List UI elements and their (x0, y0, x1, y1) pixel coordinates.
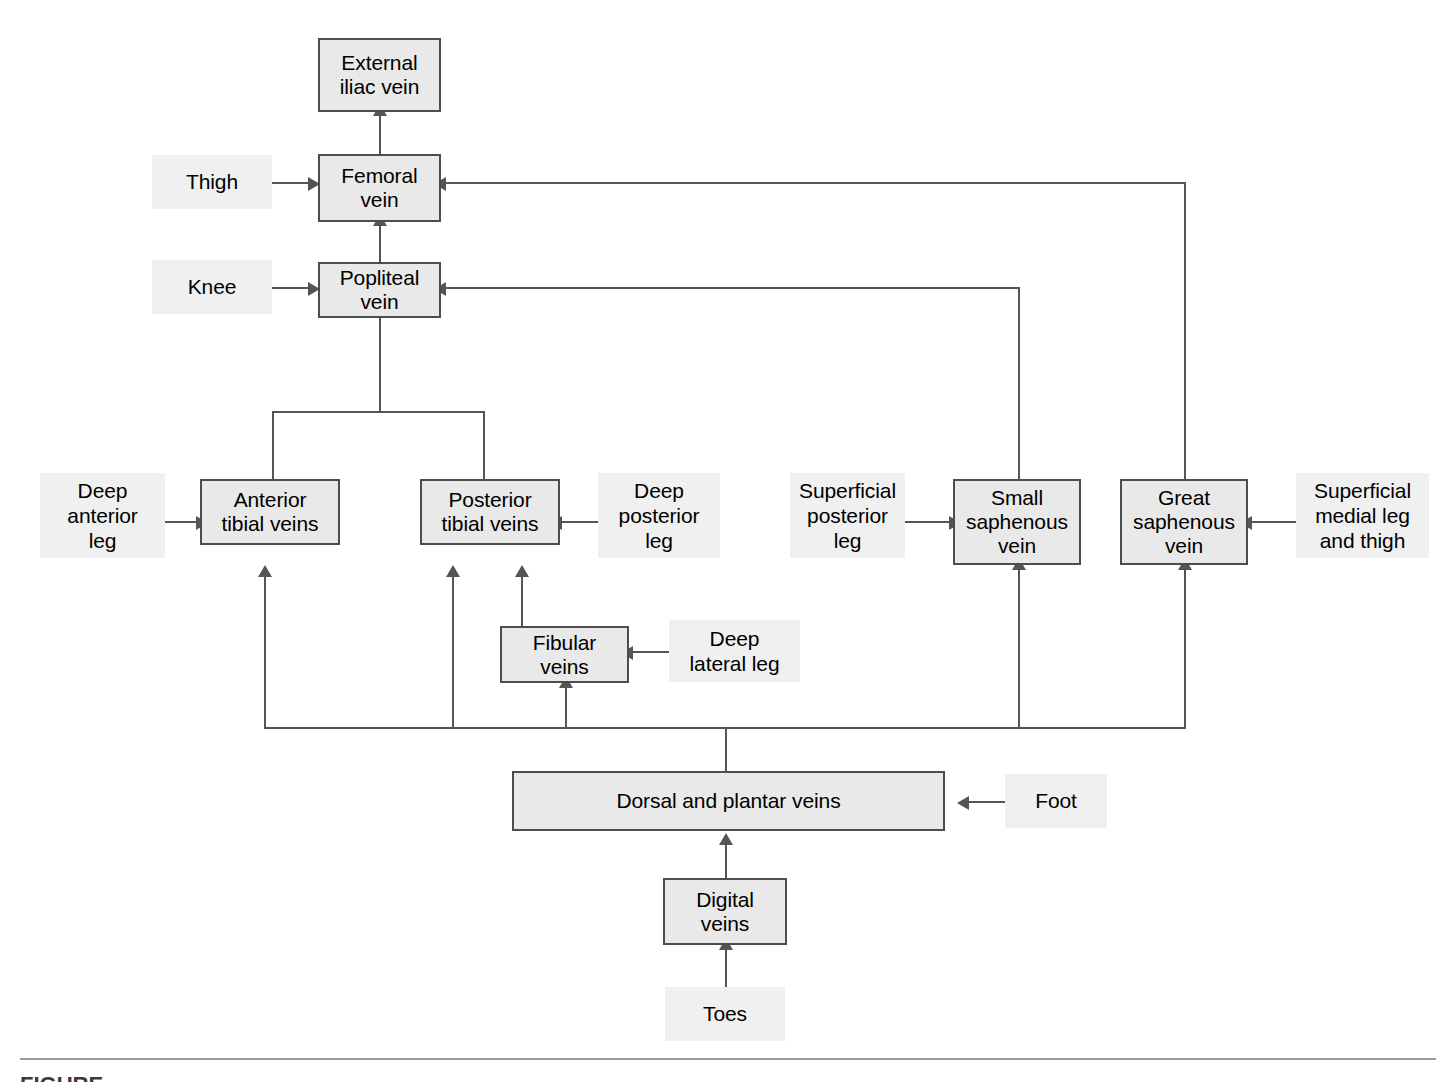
source-label-deep-lateral-leg-line1: Deep (690, 626, 780, 651)
source-label-thigh: Thigh (152, 155, 272, 209)
node-anterior-tibial-veins-line1: Anterior (222, 488, 319, 512)
edge-small-saphenous-riser (1018, 287, 1020, 479)
node-small-saphenous-vein-line3: vein (966, 534, 1068, 558)
edge-foot-to-dorsal-plantar (965, 801, 1005, 803)
edge-toes-to-digital (725, 945, 727, 987)
edge-superficial-posterior-leg-to-small-saphenous (905, 521, 953, 523)
source-label-superficial-posterior-leg-line3: leg (799, 528, 896, 553)
node-anterior-tibial-veins-line2: tibial veins (222, 512, 319, 536)
edge-posterior-tibial-to-junction (483, 411, 485, 479)
node-dorsal-and-plantar-veins-label: Dorsal and plantar veins (616, 789, 840, 813)
edge-small-saphenous-to-popliteal (444, 287, 1020, 289)
node-dorsal-and-plantar-veins[interactable]: Dorsal and plantar veins (512, 771, 945, 831)
source-label-superficial-medial-line1: Superficial (1314, 478, 1411, 503)
node-external-iliac-vein-line1: External (340, 51, 420, 75)
node-popliteal-vein-line2: vein (340, 290, 420, 314)
node-femoral-vein[interactable]: Femoral vein (318, 154, 441, 222)
source-label-toes-text: Toes (703, 1001, 747, 1026)
source-label-deep-posterior-leg: Deep posterior leg (598, 473, 720, 558)
source-label-deep-anterior-leg-line3: leg (67, 528, 137, 553)
node-popliteal-vein-line1: Popliteal (340, 266, 420, 290)
node-posterior-tibial-veins[interactable]: Posterior tibial veins (420, 479, 560, 545)
node-small-saphenous-vein[interactable]: Small saphenous vein (953, 479, 1081, 565)
node-great-saphenous-vein[interactable]: Great saphenous vein (1120, 479, 1248, 565)
edge-great-saphenous-to-femoral (444, 182, 1186, 184)
node-fibular-veins-line1: Fibular (533, 631, 597, 655)
node-posterior-tibial-veins-line2: tibial veins (442, 512, 539, 536)
source-label-superficial-medial-leg-and-thigh: Superficial medial leg and thigh (1296, 473, 1429, 558)
edge-dorsal-plantar-to-bus (725, 727, 727, 771)
edge-femoral-to-external-iliac (379, 112, 381, 154)
node-digital-veins-line2: veins (696, 912, 754, 936)
edge-deep-anterior-leg-to-anterior-tibial (165, 521, 200, 523)
edge-great-saphenous-riser (1184, 182, 1186, 479)
arrowhead-posterior-tibial-from-bus (446, 565, 460, 577)
edge-digital-to-dorsal-plantar (725, 840, 727, 878)
source-label-knee: Knee (152, 260, 272, 314)
node-femoral-vein-line1: Femoral (341, 164, 417, 188)
edge-deep-posterior-leg-to-posterior-tibial (558, 521, 598, 523)
node-digital-veins-line1: Digital (696, 888, 754, 912)
node-fibular-veins[interactable]: Fibular veins (500, 626, 629, 683)
edge-bus-to-posterior-tibial (452, 572, 454, 729)
node-small-saphenous-vein-line2: saphenous (966, 510, 1068, 534)
edge-superficial-medial-to-great-saphenous (1248, 521, 1296, 523)
source-label-deep-anterior-leg-line2: anterior (67, 503, 137, 528)
caption-divider (20, 1058, 1436, 1060)
node-external-iliac-vein[interactable]: External iliac vein (318, 38, 441, 112)
source-label-knee-text: Knee (188, 274, 237, 299)
source-label-toes: Toes (665, 987, 785, 1041)
edge-thigh-to-femoral (272, 182, 312, 184)
edge-fibular-to-posterior-tibial (521, 572, 523, 626)
source-label-superficial-posterior-leg-line1: Superficial (799, 478, 896, 503)
edge-bus-to-small-saphenous (1018, 565, 1020, 729)
edge-knee-to-popliteal (272, 287, 312, 289)
edge-deep-lateral-leg-to-fibular (629, 651, 669, 653)
source-label-superficial-posterior-leg: Superficial posterior leg (790, 473, 905, 558)
node-fibular-veins-line2: veins (533, 655, 597, 679)
edge-bus-to-great-saphenous (1184, 565, 1186, 729)
source-label-superficial-medial-line3: and thigh (1314, 528, 1411, 553)
arrowhead-dorsal-plantar-from-foot (957, 796, 969, 810)
node-anterior-tibial-veins[interactable]: Anterior tibial veins (200, 479, 340, 545)
edge-popliteal-to-femoral (379, 222, 381, 264)
figure-canvas: External iliac vein Femoral vein Poplite… (0, 0, 1451, 1082)
source-label-superficial-posterior-leg-line2: posterior (799, 503, 896, 528)
source-label-deep-posterior-leg-line1: Deep (619, 478, 700, 503)
source-label-deep-posterior-leg-line2: posterior (619, 503, 700, 528)
source-label-deep-anterior-leg: Deep anterior leg (40, 473, 165, 558)
edge-tibial-junction-stem (379, 318, 381, 413)
arrowhead-anterior-tibial-from-bus (258, 565, 272, 577)
source-label-deep-posterior-leg-line3: leg (619, 528, 700, 553)
figure-caption: FIGURE (20, 1072, 103, 1082)
edge-anterior-tibial-to-junction (272, 411, 274, 479)
node-great-saphenous-vein-line1: Great (1133, 486, 1235, 510)
node-small-saphenous-vein-line1: Small (966, 486, 1068, 510)
arrowhead-posterior-tibial-from-fibular (515, 565, 529, 577)
edge-tibial-junction-bar (272, 411, 485, 413)
source-label-superficial-medial-line2: medial leg (1314, 503, 1411, 528)
edge-bus-to-anterior-tibial (264, 572, 266, 729)
edge-bus-to-fibular (565, 683, 567, 729)
source-label-deep-lateral-leg: Deep lateral leg (669, 620, 800, 682)
node-femoral-vein-line2: vein (341, 188, 417, 212)
source-label-foot-text: Foot (1035, 788, 1077, 813)
node-great-saphenous-vein-line2: saphenous (1133, 510, 1235, 534)
node-posterior-tibial-veins-line1: Posterior (442, 488, 539, 512)
source-label-deep-lateral-leg-line2: lateral leg (690, 651, 780, 676)
arrowhead-dorsal-plantar-from-digital (719, 833, 733, 845)
source-label-thigh-text: Thigh (186, 169, 238, 194)
node-digital-veins[interactable]: Digital veins (663, 878, 787, 945)
source-label-foot: Foot (1005, 774, 1107, 828)
source-label-deep-anterior-leg-line1: Deep (67, 478, 137, 503)
node-external-iliac-vein-line2: iliac vein (340, 75, 420, 99)
node-great-saphenous-vein-line3: vein (1133, 534, 1235, 558)
node-popliteal-vein[interactable]: Popliteal vein (318, 262, 441, 318)
